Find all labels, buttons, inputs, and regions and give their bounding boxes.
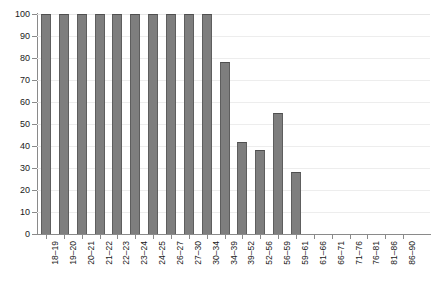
x-axis-tick	[64, 235, 65, 239]
bar	[202, 14, 212, 234]
bar	[148, 14, 158, 234]
x-axis-tick	[403, 235, 404, 239]
x-axis-tick-label: 39–52	[246, 241, 256, 265]
x-axis-tick	[189, 235, 190, 239]
y-axis-tick	[32, 234, 37, 235]
x-axis-tick-label: 61–66	[318, 241, 328, 265]
x-axis-tick-label: 30–34	[211, 241, 221, 265]
x-axis-tick-label: 20–21	[86, 241, 96, 265]
bar-chart: 0102030405060708090100 18–1919–2020–2121…	[0, 0, 438, 286]
y-axis-tick-label: 80	[20, 54, 30, 63]
x-axis-tick-label: 26–27	[175, 241, 185, 265]
x-axis-tick	[171, 235, 172, 239]
bar	[166, 14, 176, 234]
bar	[77, 14, 87, 234]
bar	[59, 14, 69, 234]
y-axis-tick-label: 40	[20, 142, 30, 151]
bar	[237, 142, 247, 234]
y-axis-tick-label: 70	[20, 76, 30, 85]
y-axis-tick-label: 50	[20, 120, 30, 129]
x-axis-tick-label: 66–71	[336, 241, 346, 265]
bar	[184, 14, 194, 234]
y-axis-tick-label: 100	[15, 10, 30, 19]
bar	[255, 150, 265, 234]
bar	[130, 14, 140, 234]
x-axis-tick-label: 56–59	[282, 241, 292, 265]
x-axis-tick	[100, 235, 101, 239]
x-axis-tick	[278, 235, 279, 239]
y-axis-tick-label: 0	[25, 230, 30, 239]
x-axis-tick-label: 71–76	[354, 241, 364, 265]
x-axis-tick-label: 22–23	[121, 241, 131, 265]
x-axis-tick-label: 76–81	[371, 241, 381, 265]
y-axis-tick-label: 90	[20, 32, 30, 41]
y-axis-tick-label: 30	[20, 164, 30, 173]
x-axis-tick	[135, 235, 136, 239]
x-axis-tick-label: 52–56	[264, 241, 274, 265]
bar	[41, 14, 51, 234]
x-axis-tick	[242, 235, 243, 239]
x-axis-tick-label: 81–86	[389, 241, 399, 265]
x-axis-tick-label: 23–24	[139, 241, 149, 265]
x-axis-tick	[350, 235, 351, 239]
x-axis-tick	[260, 235, 261, 239]
x-axis-tick	[82, 235, 83, 239]
x-axis-tick-label: 24–25	[157, 241, 167, 265]
x-axis-line	[37, 234, 431, 235]
x-axis-tick	[314, 235, 315, 239]
y-axis-tick-label: 60	[20, 98, 30, 107]
x-axis-tick	[332, 235, 333, 239]
bar	[220, 62, 230, 234]
x-axis-tick	[367, 235, 368, 239]
bar	[112, 14, 122, 234]
x-axis-tick-label: 18–19	[50, 241, 60, 265]
x-axis-tick-label: 27–30	[193, 241, 203, 265]
bar	[95, 14, 105, 234]
y-axis-tick-label: 20	[20, 186, 30, 195]
x-axis-tick	[225, 235, 226, 239]
x-axis-tick-label: 34–39	[229, 241, 239, 265]
x-axis-tick	[207, 235, 208, 239]
x-axis-tick-label: 59–61	[300, 241, 310, 265]
x-axis-tick-label: 86–90	[407, 241, 417, 265]
y-axis-tick-label: 10	[20, 208, 30, 217]
plot-area	[37, 14, 430, 234]
x-axis-tick	[46, 235, 47, 239]
x-axis-tick	[153, 235, 154, 239]
x-axis-tick	[296, 235, 297, 239]
bar	[273, 113, 283, 234]
x-axis-tick-label: 21–22	[104, 241, 114, 265]
bar	[291, 172, 301, 234]
x-axis-tick	[117, 235, 118, 239]
x-axis-tick-label: 19–20	[68, 241, 78, 265]
x-axis-tick	[385, 235, 386, 239]
